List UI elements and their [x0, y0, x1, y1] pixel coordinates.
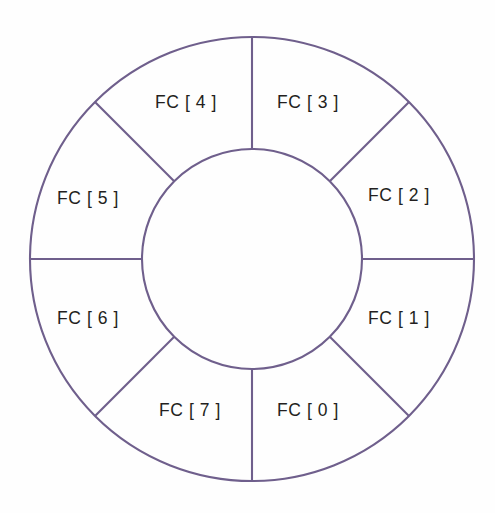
- segment-label-fc-3: FC [ 3 ]: [277, 94, 339, 112]
- segment-label-fc-0: FC [ 0 ]: [277, 402, 339, 420]
- segment-label-fc-6: FC [ 6 ]: [57, 310, 119, 328]
- spoke-upper-right: [330, 102, 409, 181]
- ring-svg: [0, 0, 495, 513]
- spoke-lower-right: [330, 337, 409, 416]
- fc-ring-diagram: FC [ 0 ]FC [ 1 ]FC [ 2 ]FC [ 3 ]FC [ 4 ]…: [0, 0, 495, 513]
- segment-label-fc-7: FC [ 7 ]: [159, 402, 221, 420]
- segment-label-fc-2: FC [ 2 ]: [368, 187, 430, 205]
- spokes-group: [30, 37, 474, 481]
- segment-label-fc-1: FC [ 1 ]: [368, 310, 430, 328]
- segment-label-fc-4: FC [ 4 ]: [155, 94, 217, 112]
- segment-label-fc-5: FC [ 5 ]: [57, 190, 119, 208]
- inner-circle: [142, 149, 362, 369]
- spoke-upper-left: [95, 102, 174, 181]
